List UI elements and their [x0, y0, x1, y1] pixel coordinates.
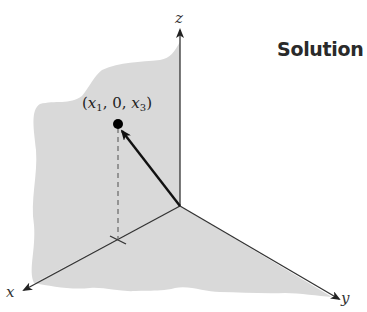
y-axis-label: y [340, 289, 350, 307]
x-axis-label: x [6, 283, 15, 301]
solution-heading: Solution [277, 38, 364, 60]
z-axis-label: z [174, 9, 183, 27]
point-dot [113, 119, 123, 129]
